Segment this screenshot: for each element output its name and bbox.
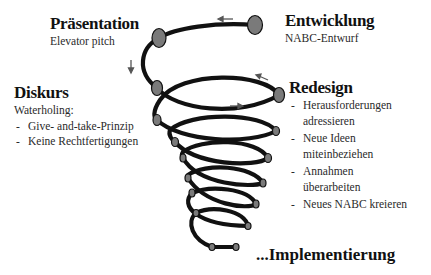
node-praesentation <box>152 29 166 48</box>
node-diskurs <box>152 81 163 96</box>
direction-arrows <box>129 17 269 109</box>
bullet-item: Keine Rechtfertigungen <box>14 134 138 150</box>
stage-implementierung: ...Implementierung <box>256 245 395 265</box>
redesign-bullets: Herausforderungen adressieren Neue Ideen… <box>289 98 407 213</box>
bullet-item: Give- and-take-Prinzip <box>14 119 138 135</box>
stage-redesign: Redesign Herausforderungen adressieren N… <box>289 78 407 215</box>
node-redesign <box>274 88 285 103</box>
bullet-item: Neues NABC kreieren <box>289 197 407 213</box>
bullet-item: Herausforderungen adressieren <box>289 98 407 129</box>
node-tail-end <box>233 244 239 251</box>
bullet-item: Annahmen überarbeiten <box>289 164 407 195</box>
stage-subtitle: NABC-Entwurf <box>285 31 374 47</box>
stage-subtitle: Elevator pitch <box>50 34 139 50</box>
stage-title: Entwicklung <box>285 11 374 31</box>
spiral-path <box>143 24 279 247</box>
node-tail-start <box>209 244 215 251</box>
stage-entwicklung: Entwicklung NABC-Entwurf <box>285 11 374 47</box>
stage-title: Diskurs <box>14 83 138 103</box>
node-entwicklung <box>248 16 263 35</box>
arrow-left-icon <box>218 17 233 22</box>
arrow-up-left-icon <box>256 74 268 80</box>
stage-praesentation: Präsentation Elevator pitch <box>50 14 139 50</box>
arrow-down-icon <box>129 60 134 73</box>
stage-title: Präsentation <box>50 14 139 34</box>
stage-subtitle: Waterholing: <box>14 103 138 119</box>
diskurs-bullets: Give- and-take-Prinzip Keine Rechtfertig… <box>14 119 138 150</box>
stage-diskurs: Diskurs Waterholing: Give- and-take-Prin… <box>14 83 138 150</box>
stage-title: Redesign <box>289 78 407 98</box>
bullet-item: Neue Ideen miteinbeziehen <box>289 131 407 162</box>
